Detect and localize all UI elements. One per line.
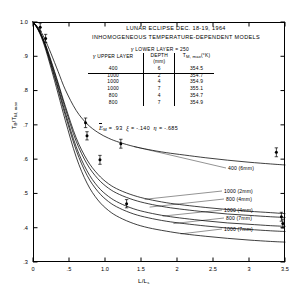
title-line-1: LUNAR ECLIPSE DEC. 18-19, 1964 [78,24,274,33]
x-tick-label: 2.5 [201,266,225,272]
curve-label: 1000 (7mm) [224,226,253,232]
legend-row: 8007354.9 [83,99,218,106]
legend-cell-tmax: 354.7 [175,93,218,100]
legend-cell-gamma: 800 [83,93,144,100]
gamma-symbol-lower: γ [131,45,134,52]
curve-label: 800 (4mm) [226,196,252,202]
e-bar-value: = .93 [109,125,123,131]
title-line-2: INHOMOGENEOUS TEMPERATURE-DEPENDENT MODE… [78,33,274,42]
legend-header-row: γ UPPER LAYER DEPTH (mm) TM, max(°K) [83,53,218,65]
xi-value: = -.140 [131,125,150,131]
parameter-line: EM = .93 ξ = -.140 η = -.685 [99,124,229,132]
chart-title: LUNAR ECLIPSE DEC. 18-19, 1964 INHOMOGEN… [78,24,274,41]
legend-cell-tmax: 355.1 [175,86,218,93]
y-tick-label: .9 [6,53,28,59]
y-tick-label: .5 [6,190,28,196]
legend-row: 10004354.9 [83,79,218,86]
chart-figure: 1.0.9.8.7.6.5.4.3 0.51.01.522.533.5 TB/T… [0,0,308,307]
x-tick-label: .5 [57,266,81,272]
e-bar-symbol: E [99,124,103,131]
y-axis-title: TB/TM, max [11,86,18,146]
curve-label: 400 (6mm) [228,165,254,171]
legend-cell-depth: 7 [144,99,175,106]
y-tick-label: .3 [6,259,28,265]
eta-value: = -.685 [159,125,178,131]
legend-col-depth: DEPTH (mm) [144,53,175,65]
legend-cell-gamma: 1000 [83,79,144,86]
x-tick-label: 3 [237,266,261,272]
x-tick-label: 3.5 [273,266,297,272]
legend-row: 8004354.7 [83,93,218,100]
curve-label: 1000 (2mm) [224,188,253,194]
model-legend-table: γ UPPER LAYER DEPTH (mm) TM, max(°K) 400… [83,53,218,106]
x-tick-label: 0 [21,266,45,272]
legend-row: 4006354.5 [83,65,218,72]
legend-cell-depth: 4 [144,93,175,100]
legend-col-tmax-unit: (°K) [201,53,210,58]
x-axis-title: L/Ls [138,277,150,285]
legend-header-rule [88,73,214,74]
legend-cell-depth: 4 [144,79,175,86]
y-tick-label: 1.0 [6,19,28,25]
eta-symbol: η [154,124,157,131]
legend-cell-gamma: 800 [83,99,144,106]
legend-cell-tmax: 354.9 [175,99,218,106]
x-tick-label: 2 [165,266,189,272]
legend-col-tmax-sub: M, max [186,54,201,59]
xi-symbol: ξ [126,124,129,131]
legend-cell-tmax: 354.9 [175,79,218,86]
e-bar-subscript: M [103,127,107,132]
legend-col-gamma: γ UPPER LAYER [83,53,144,65]
legend-cell-gamma: 1000 [83,86,144,93]
x-tick-label: 1.0 [93,266,117,272]
legend-col-gamma-label: UPPER LAYER [97,54,133,59]
legend-row: 10007355.1 [83,86,218,93]
lower-layer-note: γ LOWER LAYER = 250 [90,45,230,52]
legend-cell-tmax: 354.5 [175,65,218,72]
curve-label: 800 (7mm) [226,215,252,221]
legend-cell-depth: 6 [144,65,175,72]
gamma-symbol-upper: γ [93,52,96,59]
legend-cell-gamma: 400 [83,65,144,72]
lower-layer-label: LOWER LAYER = 250 [135,47,189,52]
legend-cell-depth: 7 [144,86,175,93]
y-tick-label: .4 [6,225,28,231]
y-tick-label: .6 [6,156,28,162]
legend-col-tmax: TM, max(°K) [175,53,218,65]
curve-label: 1000 (4mm) [224,207,253,213]
x-tick-label: 1.5 [129,266,153,272]
